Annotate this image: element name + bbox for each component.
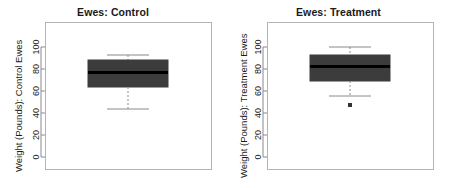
boxplot-figure: Ewes: Control Weight (Pounds): Control E… (0, 0, 451, 188)
tick-label: 0 (31, 154, 41, 159)
tick-label: 80 (31, 64, 41, 74)
panel-control-plot: 0 20 40 60 80 100 (0, 0, 226, 188)
panel-control: Ewes: Control Weight (Pounds): Control E… (0, 0, 226, 188)
tick-label: 20 (31, 130, 41, 140)
y-axis-ticks-treatment (263, 47, 267, 157)
y-axis-tick-labels-treatment: 0 20 40 60 80 100 (253, 39, 263, 159)
outlier-point (348, 103, 352, 107)
tick-label: 0 (253, 154, 263, 159)
tick-label: 60 (31, 86, 41, 96)
panel-treatment-ylabel: Weight (Pounds): Treatment Ewes (238, 34, 249, 179)
tick-label: 40 (31, 108, 41, 118)
tick-label: 80 (253, 64, 263, 74)
tick-label: 40 (253, 108, 263, 118)
y-axis-ticks-control (41, 47, 45, 157)
tick-label: 20 (253, 130, 263, 140)
tick-label: 100 (31, 39, 41, 54)
y-axis-tick-labels-control: 0 20 40 60 80 100 (31, 39, 41, 159)
tick-label: 100 (253, 39, 263, 54)
panel-treatment-plot: 0 20 40 60 80 100 (226, 0, 451, 188)
tick-label: 60 (253, 86, 263, 96)
panel-treatment: Ewes: Treatment 0 20 40 60 80 100 (226, 0, 451, 188)
